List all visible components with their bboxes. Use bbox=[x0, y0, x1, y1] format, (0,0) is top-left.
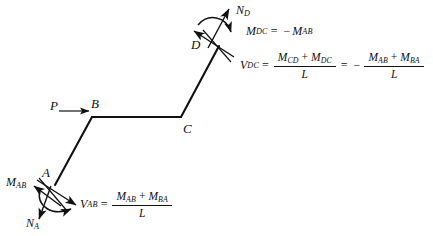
vab-f-plus: + bbox=[136, 190, 149, 202]
vdc-f1-n-t1: M bbox=[278, 51, 288, 63]
node-label-c: C bbox=[183, 122, 192, 135]
vdc-frac1-denominator: L bbox=[298, 67, 312, 80]
mab-base: M bbox=[6, 175, 16, 189]
member-ab bbox=[55, 117, 92, 185]
vdc-f1-n-t1-sub: CD bbox=[287, 56, 298, 65]
vdc-fraction-2: MAB+MBA L bbox=[364, 51, 423, 80]
mdc-lhs-sub: DC bbox=[256, 27, 268, 36]
frame-geometry bbox=[0, 0, 433, 236]
vab-frac-denominator: L bbox=[135, 206, 149, 219]
vdc-frac2-numerator: MAB+MBA bbox=[364, 51, 423, 66]
node-label-p: P bbox=[50, 99, 58, 112]
na-base: N bbox=[26, 216, 34, 230]
mdc-minus: − bbox=[280, 24, 292, 39]
vab-fraction: MAB+MBA L bbox=[112, 190, 171, 219]
label-moment-mab: MAB bbox=[6, 176, 26, 190]
vab-equals: = bbox=[98, 197, 111, 212]
mdc-rhs-sub: AB bbox=[302, 27, 312, 36]
vdc-frac2-denominator: L bbox=[387, 67, 401, 80]
na-sub: A bbox=[34, 222, 39, 231]
vdc-frac1-numerator: MCD+MDC bbox=[274, 51, 336, 66]
vdc-equals: = bbox=[259, 58, 272, 73]
mdc-equals: = bbox=[268, 24, 281, 39]
node-label-a: A bbox=[42, 166, 50, 179]
vab-f-n-t1-sub: AB bbox=[126, 195, 136, 204]
vab-f-n-t1: M bbox=[116, 190, 126, 202]
vdc-minus: − bbox=[351, 58, 363, 73]
mdc-lhs: M bbox=[246, 24, 256, 39]
vdc-f2-n-t1: M bbox=[368, 51, 378, 63]
vdc-f1-n-t2-sub: DC bbox=[321, 56, 332, 65]
nd-base: N bbox=[236, 3, 244, 17]
moment-mdc-curved-arrow bbox=[198, 18, 231, 32]
vab-f-n-t2-sub: BA bbox=[158, 195, 168, 204]
vab-f-n-t2: M bbox=[148, 190, 158, 202]
equation-vab: VAB = MAB+MBA L bbox=[80, 190, 174, 219]
vdc-lhs-sub: DC bbox=[247, 61, 259, 70]
figure-canvas: P B C D A ND MDC = − MAB VDC = MCD+MDC L… bbox=[0, 0, 433, 236]
node-label-b: B bbox=[91, 97, 99, 110]
vab-frac-numerator: MAB+MBA bbox=[112, 190, 171, 205]
vdc-f2-plus: + bbox=[388, 51, 401, 63]
vdc-equals-2: = bbox=[338, 58, 351, 73]
vdc-fraction-1: MCD+MDC L bbox=[274, 51, 336, 80]
member-cd bbox=[181, 46, 219, 117]
vdc-f2-n-t2: M bbox=[400, 51, 410, 63]
label-axial-na: NA bbox=[26, 217, 39, 231]
node-label-d: D bbox=[191, 38, 200, 51]
vdc-f2-n-t1-sub: AB bbox=[378, 56, 388, 65]
frame-members bbox=[55, 46, 219, 185]
mdc-rhs: M bbox=[292, 24, 302, 39]
vab-lhs-sub: AB bbox=[87, 200, 97, 209]
label-axial-nd: ND bbox=[236, 4, 250, 18]
vdc-f2-n-t2-sub: BA bbox=[410, 56, 420, 65]
vdc-f1-plus: + bbox=[299, 51, 312, 63]
equation-mdc: MDC = − MAB bbox=[246, 24, 313, 39]
nd-sub: D bbox=[244, 9, 250, 18]
vdc-f1-n-t2: M bbox=[311, 51, 321, 63]
equation-vdc: VDC = MCD+MDC L = − MAB+MBA L bbox=[240, 51, 426, 80]
mab-sub: AB bbox=[16, 181, 26, 190]
